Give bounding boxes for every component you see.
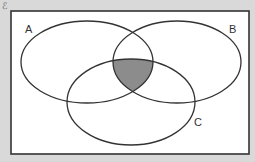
venn-diagram: A B C [0,0,255,162]
set-c-label: C [194,116,202,128]
set-b-label: B [229,23,236,35]
set-a-label: A [25,23,33,35]
